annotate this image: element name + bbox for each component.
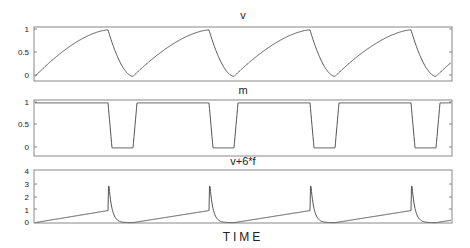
panel-m: m 1 0.5 0 [18, 84, 452, 156]
svg-text:2: 2 [25, 193, 30, 202]
chart-figure: v 1 0.5 0 m 1 0.5 0 [0, 0, 470, 248]
svg-text:0: 0 [25, 71, 30, 80]
x-axis-label: TIME [223, 230, 264, 244]
panel-m-frame [34, 100, 452, 156]
svg-text:4: 4 [25, 167, 30, 176]
panel-v-frame [34, 27, 452, 81]
panel-m-yticks: 1 0.5 0 [18, 98, 452, 152]
panel-vf-title: v+6*f [230, 155, 256, 167]
panel-v-title: v [240, 9, 246, 21]
svg-text:0.5: 0.5 [18, 120, 30, 129]
series-vf-line [35, 186, 451, 222]
panel-vf-frame [34, 170, 452, 223]
series-v-line [35, 30, 451, 77]
panel-v-yticks: 1 0.5 0 [18, 25, 452, 80]
svg-text:3: 3 [25, 180, 30, 189]
svg-text:1: 1 [25, 206, 30, 215]
panel-v: v 1 0.5 0 [18, 9, 452, 81]
svg-text:1: 1 [25, 25, 30, 34]
svg-text:0.5: 0.5 [18, 48, 30, 57]
panel-m-title: m [238, 84, 247, 96]
svg-text:0: 0 [25, 218, 30, 227]
svg-text:0: 0 [25, 143, 30, 152]
panel-vf: v+6*f 4 3 2 1 0 [25, 155, 452, 227]
panel-vf-yticks: 4 3 2 1 0 [25, 167, 452, 227]
series-m-line [35, 103, 451, 148]
svg-text:1: 1 [25, 98, 30, 107]
